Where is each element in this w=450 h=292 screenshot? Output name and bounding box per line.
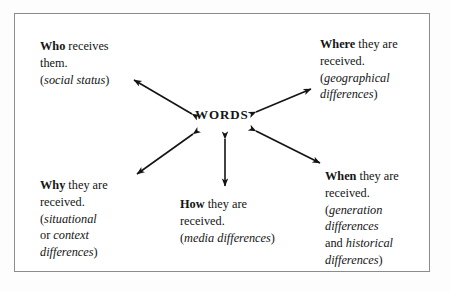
node-when: When they are received. (generation diff… bbox=[325, 168, 399, 269]
paren-close: ) bbox=[374, 87, 378, 101]
node-who-rest: receives bbox=[65, 39, 108, 53]
node-why-line3: (situational bbox=[40, 211, 108, 228]
node-why-qualifier-1: situational bbox=[44, 212, 97, 226]
node-why: Why they are received. (situational or c… bbox=[40, 177, 108, 261]
node-why-rest: they are bbox=[65, 178, 107, 192]
node-where: Where they are received. (geographical d… bbox=[320, 36, 398, 103]
diagram-canvas: WORDS Who receives them. (social status)… bbox=[0, 0, 450, 292]
node-who: Who receives them. (social status) bbox=[40, 38, 109, 88]
node-who-keyword: Who bbox=[40, 39, 65, 53]
node-when-qualifier-3: historical bbox=[346, 236, 393, 250]
node-how-line2: received. bbox=[180, 213, 275, 230]
paren-close: ) bbox=[379, 253, 383, 267]
node-why-line2: received. bbox=[40, 194, 108, 211]
node-why-keyword: Why bbox=[40, 178, 65, 192]
node-when-qualifier-1: generation bbox=[329, 203, 382, 217]
node-how-qualifier: media differences bbox=[184, 231, 271, 245]
node-how: How they are received. (media difference… bbox=[180, 196, 275, 246]
center-node-words: WORDS bbox=[195, 107, 249, 123]
node-where-keyword: Where bbox=[320, 37, 355, 51]
node-why-qualifier-3: differences bbox=[40, 245, 94, 259]
node-when-line3: (generation bbox=[325, 202, 399, 219]
node-when-line4: differences bbox=[325, 218, 399, 235]
node-when-rest: they are bbox=[356, 169, 398, 183]
node-how-keyword: How bbox=[180, 197, 205, 211]
node-where-line2: received. bbox=[320, 53, 398, 70]
node-who-line2: them. bbox=[40, 55, 109, 72]
node-who-line1: Who receives bbox=[40, 38, 109, 55]
node-when-line5: and historical bbox=[325, 235, 399, 252]
node-why-qualifier-2: context bbox=[53, 228, 89, 242]
node-why-line5: differences) bbox=[40, 244, 108, 261]
node-when-qualifier-2: differences bbox=[325, 219, 379, 233]
node-why-line4: or context bbox=[40, 227, 108, 244]
node-who-line3: (social status) bbox=[40, 72, 109, 89]
paren-close: ) bbox=[94, 245, 98, 259]
node-where-line4: differences) bbox=[320, 86, 398, 103]
node-when-line2: received. bbox=[325, 185, 399, 202]
node-where-qualifier-1: geographical bbox=[324, 71, 390, 85]
center-node-label: WORDS bbox=[195, 107, 249, 122]
node-where-qualifier-2: differences bbox=[320, 87, 374, 101]
node-how-rest: they are bbox=[205, 197, 247, 211]
node-where-line1: Where they are bbox=[320, 36, 398, 53]
node-where-line3: (geographical bbox=[320, 70, 398, 87]
node-why-line1: Why they are bbox=[40, 177, 108, 194]
node-when-keyword: When bbox=[325, 169, 356, 183]
node-when-qualifier-4: differences bbox=[325, 253, 379, 267]
node-when-line6: differences) bbox=[325, 252, 399, 269]
node-why-conjunction: or bbox=[40, 228, 53, 242]
paren-close: ) bbox=[105, 73, 109, 87]
node-where-rest: they are bbox=[355, 37, 397, 51]
node-how-line1: How they are bbox=[180, 196, 275, 213]
paren-close: ) bbox=[271, 231, 275, 245]
node-how-line3: (media differences) bbox=[180, 230, 275, 247]
node-who-qualifier: social status bbox=[44, 73, 105, 87]
node-when-conjunction: and bbox=[325, 236, 346, 250]
node-when-line1: When they are bbox=[325, 168, 399, 185]
